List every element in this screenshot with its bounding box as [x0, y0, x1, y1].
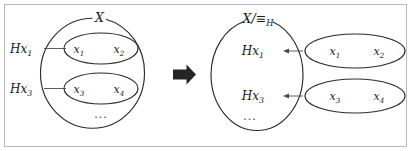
figure-container: X Hx1 Hx3 x1 x2 x3 x4	[0, 0, 411, 151]
right-class-label-1: Hx1	[241, 44, 264, 60]
right-element-x3: x3	[330, 90, 341, 105]
left-panel-group: X Hx1 Hx3 x1 x2 x3 x4	[9, 10, 145, 128]
diagram-canvas: X Hx1 Hx3 x1 x2 x3 x4	[0, 0, 411, 151]
set-x-label: X	[94, 10, 105, 25]
rightwards-arrow-icon	[173, 65, 196, 85]
right-element-x2: x2	[374, 45, 385, 60]
left-coset-label-1: Hx1	[9, 42, 32, 58]
right-class-ellipse-2	[305, 79, 405, 113]
left-ellipsis: ...	[94, 108, 108, 121]
left-element-x4: x4	[114, 83, 125, 98]
quotient-set-outer-ellipse	[211, 22, 303, 131]
left-coset-label-2: Hx3	[9, 82, 32, 98]
right-ellipsis: ...	[243, 110, 257, 123]
left-element-x2: x2	[114, 43, 125, 58]
left-element-x1: x1	[74, 43, 85, 58]
right-connector-arrowhead-2	[283, 93, 289, 98]
right-class-ellipse-1	[305, 34, 405, 68]
transform-arrow-group	[173, 65, 196, 85]
right-element-x4: x4	[374, 90, 385, 105]
right-class-label-2: Hx3	[241, 89, 264, 105]
quotient-set-label: X/≡H	[242, 11, 275, 28]
right-connector-arrowhead-1	[283, 48, 289, 53]
left-element-x3: x3	[74, 83, 85, 98]
right-panel-group: X/≡H Hx1 Hx3 ... x1 x2 x3	[211, 11, 405, 131]
right-element-x1: x1	[330, 45, 341, 60]
